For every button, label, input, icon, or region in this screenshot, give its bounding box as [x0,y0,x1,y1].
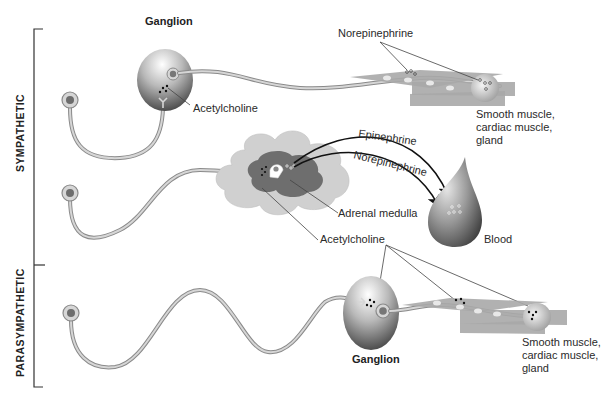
autonomic-nervous-system-diagram: SYMPATHETIC PARASYMPATHETIC Ganglion Ace… [0,0,611,394]
norepinephrine-label-blood: Norepinephrine [353,148,429,178]
para-effector-label-line3: gland [522,362,549,374]
blood-drop [428,157,482,247]
acetylcholine-label-ganglion: Acetylcholine [193,102,258,114]
norepinephrine-label-effector: Norepinephrine [338,27,413,39]
parasympathetic-effector-muscle [402,298,567,334]
division-bracket [34,29,45,387]
para-effector-label-line2: cardiac muscle, [522,349,598,361]
parasympathetic-label: PARASYMPATHETIC [14,268,26,377]
adrenal-medulla-label: Adrenal medulla [338,207,418,219]
effector-label-line3: gland [476,134,503,146]
sympathetic-effector-muscle [350,70,515,106]
sympathetic-ganglion [137,49,193,111]
parasympathetic-preganglionic-neuron [63,290,358,367]
parasympathetic-ganglion [343,276,399,350]
sympathetic-label: SYMPATHETIC [14,94,26,172]
acetylcholine-label-shared: Acetylcholine [320,233,385,245]
para-effector-label-line1: Smooth muscle, [522,336,601,348]
epinephrine-label: Epinephrine [358,127,418,147]
blood-label: Blood [484,233,512,245]
effector-label-line1: Smooth muscle, [476,108,555,120]
sympathetic-ganglion-label: Ganglion [145,15,193,27]
effector-label-line2: cardiac muscle, [476,121,552,133]
parasympathetic-ganglion-label: Ganglion [352,353,400,365]
